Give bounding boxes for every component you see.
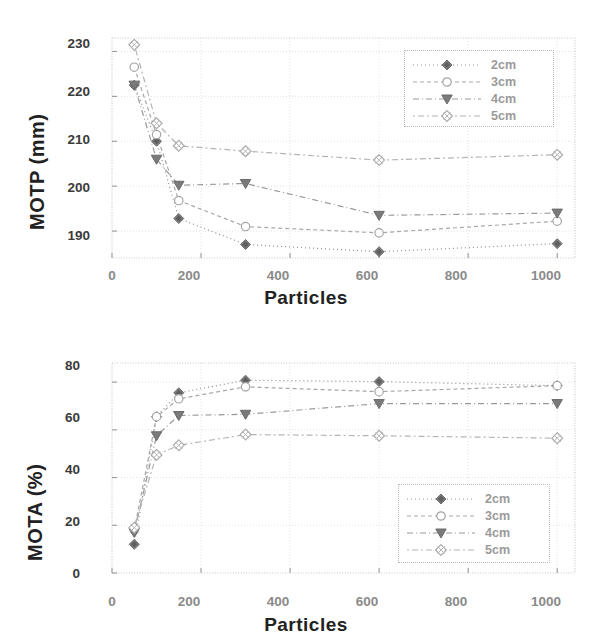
motp-xtick-0: 0 xyxy=(89,268,135,283)
motp-xtick-600: 600 xyxy=(344,268,390,283)
motp-legend-marker-icon xyxy=(411,91,483,107)
mota-chart-figure: MOTA (%) 0 20 40 60 80 0 200 400 600 800… xyxy=(0,321,612,642)
motp-legend-item: 2cm xyxy=(411,56,547,73)
motp-xtick-1000: 1000 xyxy=(521,268,571,283)
mota-xtick-800: 800 xyxy=(433,594,479,609)
motp-chart-figure: MOTP (mm) 190 200 210 220 230 0 200 400 … xyxy=(0,0,612,321)
mota-xtick-400: 400 xyxy=(255,594,301,609)
motp-legend-label: 4cm xyxy=(491,92,516,106)
motp-legend-label: 5cm xyxy=(491,109,516,123)
motp-legend-item: 3cm xyxy=(411,73,547,90)
mota-x-axis-label: Particles xyxy=(0,614,612,636)
motp-x-axis-label: Particles xyxy=(0,287,612,309)
mota-legend-item: 3cm xyxy=(405,507,543,524)
mota-xtick-0: 0 xyxy=(89,594,135,609)
motp-legend-label: 2cm xyxy=(491,58,516,72)
mota-xtick-600: 600 xyxy=(344,594,390,609)
mota-legend-label: 5cm xyxy=(485,543,510,557)
mota-legend-marker-icon xyxy=(405,491,477,507)
mota-legend-label: 2cm xyxy=(485,492,510,506)
motp-legend-item: 5cm xyxy=(411,107,547,124)
mota-legend-label: 4cm xyxy=(485,526,510,540)
mota-legend-item: 2cm xyxy=(405,490,543,507)
mota-legend-marker-icon xyxy=(405,542,477,558)
mota-legend: 2cm3cm4cm5cm xyxy=(398,484,550,563)
motp-xtick-200: 200 xyxy=(166,268,212,283)
mota-legend-marker-icon xyxy=(405,508,477,524)
mota-legend-label: 3cm xyxy=(485,509,510,523)
motp-legend-item: 4cm xyxy=(411,90,547,107)
motp-legend: 2cm3cm4cm5cm xyxy=(404,50,554,127)
motp-legend-marker-icon xyxy=(411,108,483,124)
motp-xtick-800: 800 xyxy=(433,268,479,283)
motp-legend-marker-icon xyxy=(411,74,483,90)
mota-xtick-200: 200 xyxy=(166,594,212,609)
mota-legend-item: 4cm xyxy=(405,524,543,541)
motp-legend-label: 3cm xyxy=(491,75,516,89)
motp-legend-marker-icon xyxy=(411,57,483,73)
mota-legend-marker-icon xyxy=(405,525,477,541)
mota-xtick-1000: 1000 xyxy=(521,594,571,609)
mota-legend-item: 5cm xyxy=(405,541,543,558)
motp-xtick-400: 400 xyxy=(255,268,301,283)
